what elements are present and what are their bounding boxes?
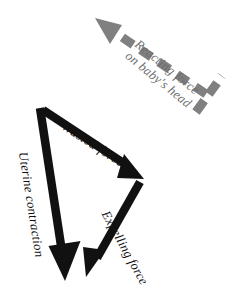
force-diagram-figure: Wasted force Uterine contraction Expelli… [0, 0, 243, 289]
